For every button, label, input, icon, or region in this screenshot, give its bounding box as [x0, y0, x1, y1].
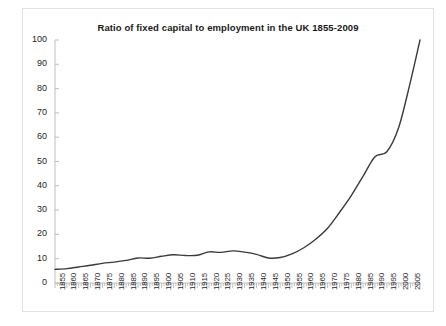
- x-axis-tick-label: 1950: [284, 273, 292, 290]
- y-axis-tick-label: 60: [21, 132, 47, 141]
- x-axis-tick-label: 1970: [331, 273, 339, 290]
- y-axis-tick-label: 80: [21, 84, 47, 93]
- x-axis-tick-label: 1885: [130, 273, 138, 290]
- x-axis-tick-label: 1905: [177, 273, 185, 290]
- x-axis-tick-label: 1915: [201, 273, 209, 290]
- x-axis-tick-label: 1935: [248, 273, 256, 290]
- y-axis-tick-label: 20: [21, 229, 47, 238]
- x-axis-tick-label: 1855: [59, 273, 67, 290]
- x-axis-tick-label: 1920: [213, 273, 221, 290]
- axes: [55, 40, 420, 283]
- x-axis-tick-label: 1860: [70, 273, 78, 290]
- y-axis-tick-label: 100: [21, 35, 47, 44]
- x-axis-tick-label: 1945: [272, 273, 280, 290]
- y-axis-tick-label: 10: [21, 254, 47, 263]
- x-axis-tick-label: 1880: [118, 273, 126, 290]
- x-axis-tick-label: 1925: [224, 273, 232, 290]
- y-axis-tick-label: 50: [21, 157, 47, 166]
- x-axis-tick-label: 1910: [189, 273, 197, 290]
- data-series-line: [55, 40, 420, 269]
- x-axis-tick-label: 1985: [367, 273, 375, 290]
- x-axis-tick-label: 1940: [260, 273, 268, 290]
- x-axis-tick-label: 1980: [355, 273, 363, 290]
- x-axis-tick-label: 1890: [141, 273, 149, 290]
- x-axis-tick-label: 1955: [296, 273, 304, 290]
- y-axis-tick-label: 0: [21, 278, 47, 287]
- x-axis-tick-label: 1960: [307, 273, 315, 290]
- x-axis-tick-label: 2005: [414, 273, 422, 290]
- y-axis-tick-marks: [55, 40, 59, 283]
- x-axis-tick-label: 1995: [390, 273, 398, 290]
- y-axis-tick-label: 40: [21, 181, 47, 190]
- y-axis-tick-label: 90: [21, 59, 47, 68]
- x-axis-tick-label: 1870: [94, 273, 102, 290]
- x-axis-tick-label: 1930: [236, 273, 244, 290]
- x-axis-tick-label: 1975: [343, 273, 351, 290]
- x-axis-tick-label: 1895: [153, 273, 161, 290]
- y-axis-tick-label: 70: [21, 108, 47, 117]
- y-axis-tick-label: 30: [21, 205, 47, 214]
- x-axis-tick-label: 1875: [106, 273, 114, 290]
- x-axis-tick-label: 1965: [319, 273, 327, 290]
- x-axis-tick-label: 1990: [378, 273, 386, 290]
- chart-container: Ratio of fixed capital to employment in …: [0, 0, 446, 326]
- x-axis-tick-label: 2000: [402, 273, 410, 290]
- x-axis-tick-label: 1900: [165, 273, 173, 290]
- x-axis-tick-label: 1865: [82, 273, 90, 290]
